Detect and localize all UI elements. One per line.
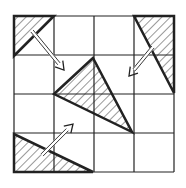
arrow-bottom-left-to-center (41, 124, 73, 156)
arrow-top-right-to-center (129, 46, 154, 76)
center-triangle (54, 58, 132, 132)
arrow-top-left-to-center (31, 30, 64, 70)
grid-diagram (0, 0, 186, 188)
